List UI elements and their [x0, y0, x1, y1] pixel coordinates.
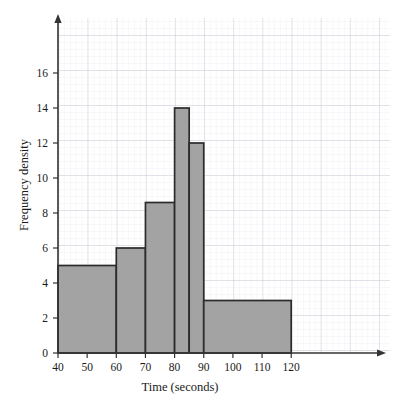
- x-tick-label: 120: [283, 361, 301, 373]
- y-tick-label: 10: [37, 172, 49, 184]
- x-tick-label: 60: [111, 361, 123, 373]
- x-tick-label: 100: [224, 361, 242, 373]
- x-axis-title: Time (seconds): [142, 380, 219, 394]
- x-axis-tick-labels: 40 50 60 70 80 90 100 110 120: [52, 361, 300, 373]
- y-tick-label: 6: [42, 242, 48, 254]
- bar-60-70: [116, 248, 145, 353]
- y-tick-label: 0: [42, 347, 48, 359]
- chart-canvas: 0 2 4 6 8 10 12 14 16 40 50 60 70 80 90 …: [0, 0, 408, 402]
- y-tick-label: 4: [42, 277, 48, 289]
- x-tick-label: 110: [254, 361, 271, 373]
- x-tick-label: 70: [140, 361, 152, 373]
- y-axis-title: Frequency density: [17, 138, 31, 231]
- y-tick-label: 8: [42, 207, 48, 219]
- y-tick-label: 14: [37, 102, 49, 114]
- bar-70-80: [145, 203, 174, 354]
- y-tick-label: 2: [42, 312, 48, 324]
- y-axis-tick-labels: 0 2 4 6 8 10 12 14 16: [37, 67, 49, 359]
- y-tick-label: 16: [37, 67, 49, 79]
- x-tick-label: 40: [52, 361, 64, 373]
- bar-85-90: [189, 143, 204, 353]
- bar-90-120: [204, 301, 291, 354]
- histogram-chart: 0 2 4 6 8 10 12 14 16 40 50 60 70 80 90 …: [0, 0, 408, 402]
- x-tick-label: 80: [169, 361, 181, 373]
- x-tick-label: 50: [81, 361, 93, 373]
- bar-80-85: [175, 108, 190, 353]
- bar-40-60: [58, 266, 116, 354]
- x-tick-label: 90: [198, 361, 210, 373]
- y-tick-label: 12: [37, 137, 49, 149]
